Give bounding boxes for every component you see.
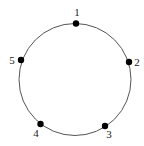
node-1 <box>73 20 79 26</box>
node-5 <box>18 57 24 63</box>
cycle-diagram: 12345 <box>0 0 144 146</box>
node-label-1: 1 <box>74 6 80 18</box>
node-label-5: 5 <box>9 54 15 66</box>
node-label-3: 3 <box>106 128 112 140</box>
node-label-2: 2 <box>134 56 140 68</box>
node-label-4: 4 <box>33 127 39 139</box>
node-2 <box>126 59 132 65</box>
nodes-group: 12345 <box>9 6 140 140</box>
circle-outline <box>19 24 131 136</box>
